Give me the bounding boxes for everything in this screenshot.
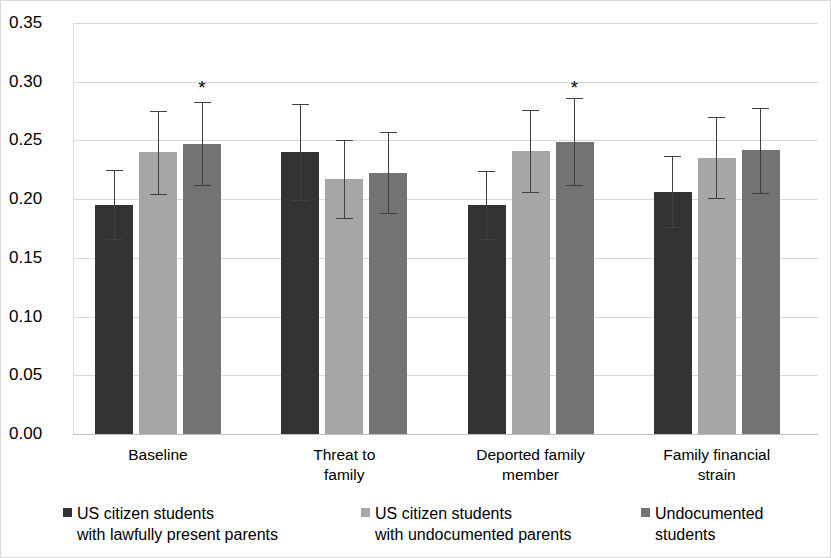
y-axis-tick-labels: 0.350.300.250.200.150.100.050.00 — [9, 1, 71, 558]
error-bar-line — [672, 156, 673, 228]
error-bar-line — [158, 111, 159, 194]
error-bar — [742, 108, 780, 194]
legend-label: US citizen students with undocumented pa… — [375, 503, 572, 546]
error-bar — [139, 111, 177, 194]
y-axis-tick-label: 0.20 — [9, 189, 71, 209]
legend-item[interactable]: US citizen students with undocumented pa… — [361, 503, 572, 546]
y-axis-tick-label: 0.00 — [9, 424, 71, 444]
error-bar-line — [300, 104, 301, 200]
error-bar-cap-lower — [478, 239, 495, 240]
error-bar-line — [530, 110, 531, 192]
error-bar-cap-upper — [292, 104, 309, 105]
error-bar-cap-lower — [522, 192, 539, 193]
bar — [512, 151, 550, 434]
legend-item[interactable]: US citizen students with lawfully presen… — [63, 503, 278, 546]
x-axis-category-label: Family financial strain — [627, 445, 807, 485]
error-bar-cap-upper — [522, 110, 539, 111]
error-bar-line — [716, 117, 717, 198]
plot-area: ** — [73, 23, 818, 434]
error-bar-cap-lower — [106, 239, 123, 240]
error-bar — [95, 170, 133, 239]
significance-star: * — [198, 78, 205, 97]
y-axis-tick-label: 0.05 — [9, 365, 71, 385]
legend-item[interactable]: Undocumented students — [641, 503, 764, 546]
error-bar-cap-upper — [752, 108, 769, 109]
error-bar-cap-lower — [336, 218, 353, 219]
y-axis-tick-label: 0.25 — [9, 130, 71, 150]
error-bar-cap-upper — [708, 117, 725, 118]
chart-legend: US citizen students with lawfully presen… — [1, 499, 831, 557]
error-bar-line — [344, 140, 345, 218]
bar — [654, 192, 692, 434]
error-bar-cap-upper — [336, 140, 353, 141]
x-axis-category-label: Baseline — [68, 445, 248, 465]
error-bar-cap-lower — [566, 185, 583, 186]
error-bar — [698, 117, 736, 198]
error-bar-cap-upper — [194, 102, 211, 103]
legend-label: Undocumented students — [655, 503, 764, 546]
error-bar — [369, 132, 407, 213]
legend-label: US citizen students with lawfully presen… — [77, 503, 278, 546]
legend-swatch-icon — [63, 508, 72, 517]
x-axis-category-label: Threat to family — [254, 445, 434, 485]
error-bar-cap-upper — [664, 156, 681, 157]
error-bar-cap-upper — [566, 98, 583, 99]
error-bar-cap-lower — [150, 194, 167, 195]
gridline — [73, 434, 818, 435]
error-bar-cap-lower — [292, 200, 309, 201]
error-bar — [654, 156, 692, 228]
bar — [698, 158, 736, 434]
bar — [183, 144, 221, 434]
x-axis-category-label: Deported family member — [441, 445, 621, 485]
error-bar — [183, 102, 221, 185]
error-bar-cap-upper — [150, 111, 167, 112]
error-bar-line — [760, 108, 761, 194]
y-axis-tick-label: 0.15 — [9, 248, 71, 268]
error-bar-line — [202, 102, 203, 185]
gridline — [73, 82, 818, 83]
error-bar — [281, 104, 319, 200]
error-bar — [556, 98, 594, 185]
error-bar-cap-lower — [194, 185, 211, 186]
error-bar-cap-upper — [478, 171, 495, 172]
error-bar — [468, 171, 506, 239]
error-bar-cap-upper — [380, 132, 397, 133]
bar-chart-figure: 0.350.300.250.200.150.100.050.00 ** Base… — [0, 0, 831, 558]
error-bar — [325, 140, 363, 218]
error-bar — [512, 110, 550, 192]
error-bar-line — [574, 98, 575, 185]
error-bar-line — [388, 132, 389, 213]
legend-swatch-icon — [641, 508, 650, 517]
error-bar-line — [486, 171, 487, 239]
error-bar-cap-lower — [664, 227, 681, 228]
error-bar-cap-lower — [708, 198, 725, 199]
y-axis-tick-label: 0.10 — [9, 307, 71, 327]
error-bar-cap-lower — [380, 213, 397, 214]
error-bar-cap-upper — [106, 170, 123, 171]
error-bar-cap-lower — [752, 193, 769, 194]
y-axis-tick-label: 0.35 — [9, 13, 71, 33]
significance-star: * — [571, 78, 578, 97]
error-bar-line — [114, 170, 115, 239]
legend-swatch-icon — [361, 508, 370, 517]
y-axis-tick-label: 0.30 — [9, 72, 71, 92]
gridline — [73, 23, 818, 24]
